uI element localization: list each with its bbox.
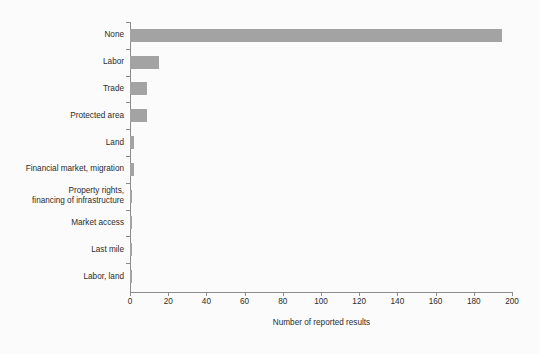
bar[interactable] [130,243,132,256]
plot-area [130,22,512,290]
x-axis-tick [283,292,284,296]
bar-row [130,102,512,129]
bar-row [130,263,512,290]
bar[interactable] [130,163,134,176]
x-axis-tick-label: 100 [314,297,328,306]
category-label: None [0,30,124,40]
bar-row [130,236,512,263]
bar[interactable] [130,216,132,229]
x-axis-tick [436,292,437,296]
x-axis-tick-label: 20 [164,297,173,306]
bar[interactable] [130,136,134,149]
category-label: Labor, land [0,272,124,282]
category-label: Labor [0,57,124,67]
x-axis-tick [206,292,207,296]
bar[interactable] [130,109,147,122]
bar-row [130,183,512,210]
x-axis-tick-label: 60 [240,297,249,306]
bar[interactable] [130,56,159,69]
category-label: Property rights, financing of infrastruc… [0,186,124,206]
x-axis-tick [245,292,246,296]
bar[interactable] [130,82,147,95]
x-axis-tick-label: 140 [391,297,405,306]
category-label: Last mile [0,245,124,255]
category-label: Protected area [0,111,124,121]
category-label: Market access [0,218,124,228]
bar-row [130,129,512,156]
x-axis-tick-label: 40 [202,297,211,306]
x-axis-title: Number of reported results [130,318,513,327]
category-label: Financial market, migration [0,164,124,174]
bar-row [130,210,512,237]
bar[interactable] [130,270,132,283]
bar-row [130,76,512,103]
x-axis-tick-label: 160 [429,297,443,306]
x-axis-tick [321,292,322,296]
x-axis-tick-label: 120 [352,297,366,306]
x-axis-tick [359,292,360,296]
chart-figure: NoneLaborTradeProtected areaLandFinancia… [0,0,539,354]
x-axis-tick-label: 200 [505,297,519,306]
bar[interactable] [130,190,132,203]
x-axis-tick [168,292,169,296]
x-axis-tick [130,292,131,296]
category-label: Land [0,138,124,148]
x-axis-tick-label: 80 [278,297,287,306]
x-axis-tick [512,292,513,296]
x-axis-tick [397,292,398,296]
bar[interactable] [130,29,502,42]
bar-row [130,22,512,49]
x-axis-tick-label: 180 [467,297,481,306]
bar-row [130,156,512,183]
x-axis-tick-label: 0 [128,297,133,306]
category-label: Trade [0,84,124,94]
bar-row [130,49,512,76]
x-axis-tick [474,292,475,296]
